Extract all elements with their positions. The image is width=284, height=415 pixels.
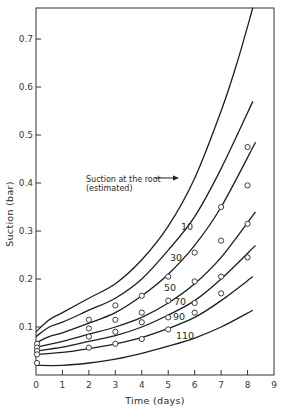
x-tick-label: 6	[192, 380, 198, 390]
x-tick-label: 8	[245, 380, 251, 390]
data-point-circle	[219, 238, 224, 243]
data-point-circle	[166, 327, 171, 332]
data-point-circle	[139, 293, 144, 298]
x-tick-label: 3	[112, 380, 118, 390]
curve-label-90: 90	[173, 311, 185, 322]
x-tick-label: 5	[165, 380, 171, 390]
x-tick-label: 7	[218, 380, 224, 390]
y-tick-label: 0.7	[19, 34, 33, 44]
x-tick-label: 2	[86, 380, 92, 390]
data-point-circle	[166, 274, 171, 279]
curve-label-50: 50	[164, 282, 176, 293]
data-point-circle	[219, 274, 224, 279]
y-tick-label: 0.1	[19, 322, 33, 332]
data-point-circle	[219, 291, 224, 296]
data-point-circle	[113, 303, 118, 308]
y-tick-label: 0.6	[19, 82, 34, 92]
x-tick-label: 4	[139, 380, 145, 390]
x-tick-labels: 0123456789	[33, 380, 277, 390]
x-tick-label: 9	[271, 380, 277, 390]
plot-frame	[36, 8, 274, 375]
curves	[36, 8, 255, 366]
data-point-circle	[113, 341, 118, 346]
curve-70	[36, 245, 255, 351]
data-point-circle	[86, 334, 91, 339]
data-point-circle	[245, 221, 250, 226]
data-point-circle	[113, 317, 118, 322]
x-axis-title: Time (days)	[124, 395, 184, 406]
y-tick-label: 0.2	[19, 274, 33, 284]
data-point-circle	[139, 336, 144, 341]
data-point-circle	[245, 255, 250, 260]
x-tick-label: 1	[60, 380, 66, 390]
curve-label-30: 30	[170, 252, 182, 263]
data-point-circle	[192, 279, 197, 284]
x-tick-label: 0	[33, 380, 39, 390]
data-point-circle	[139, 320, 144, 325]
data-point-circle	[86, 326, 91, 331]
data-point-circle	[245, 144, 250, 149]
y-axis-title: Suction (bar)	[4, 181, 15, 247]
y-tick-label: 0.5	[19, 130, 33, 140]
suction-time-chart: 0123456789 0.10.20.30.40.50.60.7 Time (d…	[0, 0, 284, 415]
y-tick-labels: 0.10.20.30.40.50.60.7	[19, 34, 34, 332]
data-point-circle	[192, 310, 197, 315]
curve-label-10: 10	[181, 221, 193, 232]
data-point-circle	[166, 315, 171, 320]
data-point-circle	[34, 360, 39, 365]
data-point-circle	[86, 317, 91, 322]
data-point-circle	[86, 345, 91, 350]
data-point-circle	[139, 310, 144, 315]
data-point-circle	[166, 298, 171, 303]
data-point-circle	[192, 250, 197, 255]
y-tick-label: 0.3	[19, 226, 33, 236]
data-point-circle	[34, 352, 39, 357]
data-point-circle	[219, 204, 224, 209]
data-point-circle	[245, 183, 250, 188]
curve-label-70: 70	[174, 296, 186, 307]
y-tick-label: 0.4	[19, 178, 34, 188]
data-point-circle	[192, 300, 197, 305]
root-annotation-line1: Suction at the root	[86, 175, 161, 184]
root-annotation-line2: (estimated)	[86, 184, 133, 193]
curve-label-110: 110	[176, 330, 194, 341]
data-point-circle	[113, 329, 118, 334]
